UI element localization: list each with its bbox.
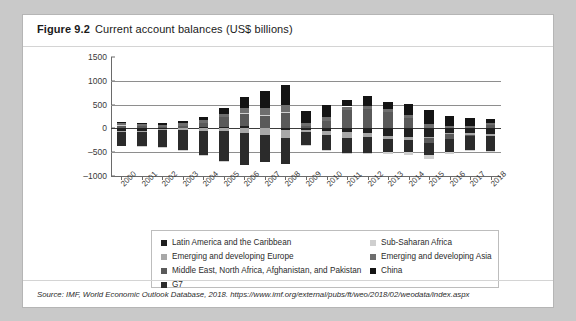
y-tick-label: 0 [102,123,107,133]
legend-item-label: Middle East, North Africa, Afghanistan, … [172,266,361,275]
page-title: Figure 9.2Current account balances (US$ … [37,23,293,35]
legend-column-right: Sub-Saharan AfricaEmerging and developin… [370,236,492,278]
legend-item[interactable]: China [370,264,492,277]
bar-segment [281,105,290,111]
bar-segment [445,152,454,155]
figure-title-text: Current account balances (US$ billions) [95,23,293,35]
bar-segment [260,91,269,108]
legend-item[interactable]: Middle East, North Africa, Afghanistan, … [161,264,361,277]
bar-segment [117,123,126,125]
legend-item[interactable]: Emerging and developing Europe [161,250,361,263]
bar-segment [137,123,146,124]
bar-segment [219,108,228,114]
bar-segment [178,130,187,150]
bar-group [240,57,249,176]
bar-segment [199,131,208,155]
bar-segment [199,117,208,120]
bar-segment [363,153,372,155]
bar-segment [445,126,454,129]
legend-item[interactable]: Latin America and the Caribbean [161,236,361,249]
bar-segment [137,132,146,146]
bar-segment [178,126,187,128]
title-divider [23,46,553,47]
bar-segment [137,124,146,126]
bar-group [178,57,187,176]
bar-segment [158,125,167,127]
bar-segment [281,138,290,165]
bar-segment [363,137,372,153]
bar-segment [322,121,331,129]
legend-item-label: Latin America and the Caribbean [172,238,291,247]
legend-swatch-icon [370,254,376,260]
bar-group [465,57,474,176]
bar-segment [117,132,126,146]
bar-group [486,57,495,176]
bar-segment [342,107,351,111]
figure-card: Figure 9.2Current account balances (US$ … [22,14,554,308]
bar-group [301,57,310,176]
bar-segment [117,125,126,126]
bar-segment [383,139,392,151]
bar-segment [240,114,249,126]
bar-segment [281,112,290,128]
bar-group [137,57,146,176]
bar-segment [486,125,495,128]
bar-segment [465,136,474,150]
bar-segment [137,146,146,147]
bar-segment [322,105,331,116]
bar-segment [342,100,351,106]
bar-group [322,57,331,176]
bar-group [199,57,208,176]
bar-segment [301,145,310,146]
legend-swatch-icon [161,282,167,288]
bar-segment [363,109,372,129]
bar-segment [301,126,310,128]
bar-segment [178,121,187,123]
bar-segment [404,140,413,152]
bar-segment [260,116,269,128]
bar-group [281,57,290,176]
bar-group [219,57,228,176]
legend-item[interactable]: Emerging and developing Asia [370,250,492,263]
bar-segment [342,153,351,154]
bar-segment [199,155,208,156]
bar-segment [465,118,474,126]
bar-segment [260,115,269,116]
bar-segment [158,147,167,148]
bar-segment [199,120,208,123]
bar-segment [281,85,290,105]
bar-group [383,57,392,176]
y-tick-label: –1000 [83,171,107,181]
bar-segment [240,113,249,114]
bar-segment [486,123,495,125]
bar-segment [383,128,392,136]
bar-segment [404,104,413,115]
legend-item[interactable]: Sub-Saharan Africa [370,236,492,249]
legend-item-label: China [381,266,402,275]
bar-segment [404,115,413,119]
bar-segment [260,135,269,163]
bar-segment [281,112,290,113]
bar-segment [158,130,167,147]
bar-group [260,57,269,176]
legend-item-label: Emerging and developing Asia [381,252,492,261]
legend-item-label: Sub-Saharan Africa [381,238,452,247]
bar-group [158,57,167,176]
bar-segment [178,123,187,126]
bar-segment [424,128,433,136]
bar-segment [445,116,454,126]
bar-segment [301,132,310,145]
bar-group [363,57,372,176]
bar-segment [424,155,433,159]
bar-segment [322,150,331,151]
bar-segment [240,97,249,108]
bar-segment [117,122,126,123]
bar-segment [199,123,208,127]
chart: 150010005000–500–1000 200020012002200320… [23,51,555,211]
legend-swatch-icon [370,240,376,246]
legend-swatch-icon [161,240,167,246]
bar-segment [240,133,249,165]
y-tick-label: 1500 [88,52,107,62]
bar-segment [322,117,331,121]
y-tick-label: –500 [88,147,107,157]
